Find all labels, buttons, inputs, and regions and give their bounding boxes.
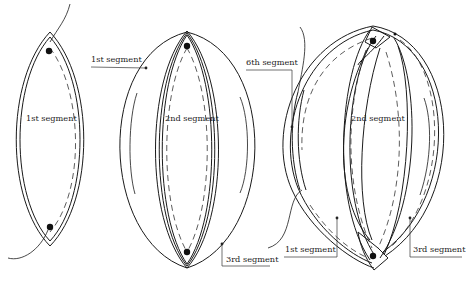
stitch-point-bottom	[370, 253, 376, 259]
bottom-flap	[358, 232, 388, 270]
stitch-point-top-right	[394, 33, 397, 36]
panel-3-six-segments: 6th segment 2nd segment 1st segment 3rd …	[246, 26, 466, 270]
outer-right-1	[373, 26, 444, 256]
outer-right-2	[373, 30, 439, 252]
label-1st-segment: 1st segment	[285, 244, 336, 254]
stitch-point-bottom	[47, 224, 53, 230]
panel-1-single-segment: 1st segment	[8, 4, 84, 259]
lobe-right	[187, 32, 255, 268]
label-2nd-segment: 2nd segment	[165, 113, 219, 123]
segment-outer-edge	[16, 32, 84, 246]
band-right-1	[380, 38, 412, 258]
leader-1st-segment	[91, 67, 146, 68]
center-edge-right-2	[187, 33, 215, 266]
leader-pin	[291, 126, 294, 129]
stitch-center-left	[351, 50, 372, 248]
center-edge-left-3	[162, 35, 187, 264]
stitch-point-top	[370, 38, 376, 44]
curve-mark-right	[240, 97, 248, 193]
center-edge-left-1	[156, 31, 188, 268]
label-6th-segment: 6th segment	[246, 57, 299, 67]
label-1st-segment: 1st segment	[91, 54, 142, 64]
center-edge-right-1	[187, 31, 219, 268]
stitch-point-top	[184, 43, 190, 49]
stitch-point-top	[46, 48, 52, 54]
label-1st-segment: 1st segment	[26, 113, 77, 123]
thread-top	[50, 4, 70, 42]
center-edge-left-2	[159, 33, 187, 266]
stitch-point-bottom	[184, 249, 190, 255]
center-edge-right-3	[187, 35, 212, 264]
stitch-right-shell	[392, 40, 435, 246]
band-left-1	[344, 30, 370, 260]
label-3rd-segment: 3rd segment	[413, 244, 466, 254]
curve-mark-left	[130, 93, 137, 194]
ball-segment-stitching-diagram: 1st segment 1st segment 2nd segment 3rd …	[0, 0, 466, 281]
lens-left-inner	[362, 48, 380, 240]
leader-pin	[145, 67, 148, 70]
label-2nd-segment: 2nd segment	[351, 113, 405, 123]
label-3rd-segment: 3rd segment	[226, 254, 279, 264]
stitch-left-shell	[302, 38, 372, 150]
thread-bottom	[268, 190, 302, 248]
stitch-line	[50, 48, 76, 232]
thread-bottom	[8, 230, 48, 259]
